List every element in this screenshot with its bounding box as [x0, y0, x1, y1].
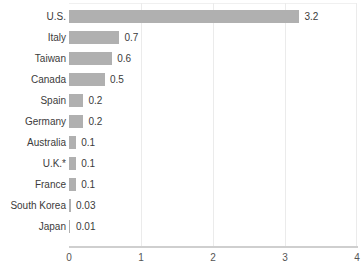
bar-row: U.S. 3.2 [0, 10, 364, 31]
category-label: Japan [0, 220, 66, 233]
bar [69, 178, 76, 191]
bar [69, 94, 83, 107]
category-label: Germany [0, 115, 66, 128]
bar-row: France 0.1 [0, 178, 364, 199]
category-label: Taiwan [0, 52, 66, 65]
value-label: 0.1 [81, 157, 95, 170]
x-tick-label: 1 [126, 251, 156, 264]
category-label: U.S. [0, 10, 66, 23]
category-label: Canada [0, 73, 66, 86]
bar [69, 199, 71, 212]
bar-chart: U.S. 3.2 Italy 0.7 Taiwan 0.6 Canada 0.5… [0, 0, 364, 273]
bar-row: Italy 0.7 [0, 31, 364, 52]
category-label: Spain [0, 94, 66, 107]
bar [69, 73, 105, 86]
bar-row: Japan 0.01 [0, 220, 364, 241]
bar [69, 220, 70, 233]
value-label: 0.7 [124, 31, 138, 44]
x-tick-label: 2 [198, 251, 228, 264]
bar [69, 157, 76, 170]
bar-row: Taiwan 0.6 [0, 52, 364, 73]
x-tick-label: 4 [342, 251, 364, 264]
bar-row: South Korea 0.03 [0, 199, 364, 220]
bar-row: Spain 0.2 [0, 94, 364, 115]
bar-row: Australia 0.1 [0, 136, 364, 157]
value-label: 0.1 [81, 136, 95, 149]
value-label: 0.5 [110, 73, 124, 86]
bar [69, 31, 119, 44]
category-label: France [0, 178, 66, 191]
category-label: South Korea [0, 199, 66, 212]
value-label: 0.01 [76, 220, 95, 233]
x-tick-label: 0 [54, 251, 84, 264]
bar-row: U.K.* 0.1 [0, 157, 364, 178]
value-label: 0.03 [76, 199, 95, 212]
category-label: U.K.* [0, 157, 66, 170]
value-label: 0.6 [117, 52, 131, 65]
x-axis-line [69, 246, 358, 248]
bar-row: Canada 0.5 [0, 73, 364, 94]
value-label: 0.2 [88, 115, 102, 128]
category-label: Australia [0, 136, 66, 149]
bar [69, 10, 299, 23]
category-label: Italy [0, 31, 66, 44]
bar [69, 52, 112, 65]
value-label: 0.1 [81, 178, 95, 191]
bar [69, 115, 83, 128]
x-tick-label: 3 [270, 251, 300, 264]
bar [69, 136, 76, 149]
bar-row: Germany 0.2 [0, 115, 364, 136]
value-label: 3.2 [304, 10, 318, 23]
value-label: 0.2 [88, 94, 102, 107]
